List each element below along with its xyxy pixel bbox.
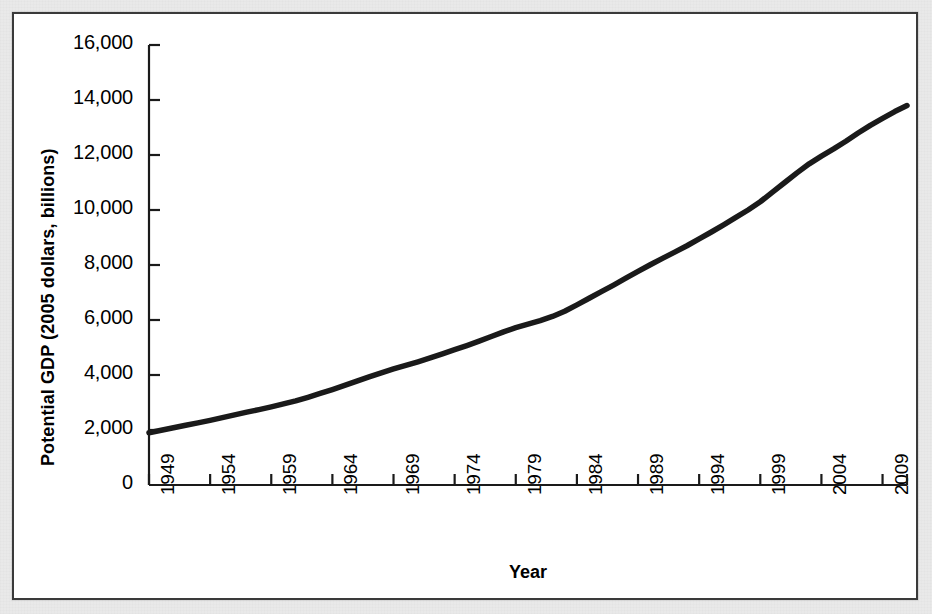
gdp-line-series: [149, 106, 907, 433]
chart-frame: Potential GDP (2005 dollars, billions) 0…: [12, 12, 918, 600]
y-axis-ticks: [149, 45, 160, 430]
axis-lines: [149, 45, 907, 485]
x-axis-ticks: [149, 474, 907, 485]
figure-container: Potential GDP (2005 dollars, billions) 0…: [0, 0, 932, 614]
plot-area: [14, 14, 920, 602]
